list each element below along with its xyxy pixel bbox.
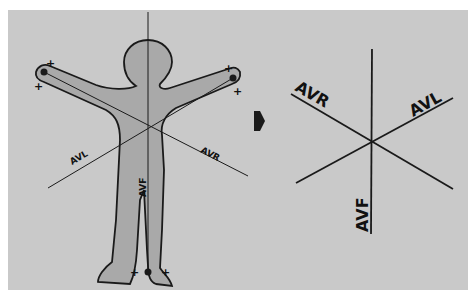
right-arm-electrode-icon bbox=[230, 75, 237, 82]
plus-icon: + bbox=[161, 266, 170, 279]
plus-icon: + bbox=[233, 85, 242, 98]
plus-icon: + bbox=[224, 62, 233, 75]
hexaxial-diagram bbox=[291, 49, 453, 234]
lead-diagram: + + + + + + AVL AVR AVF AVR AVL AVF bbox=[0, 0, 476, 299]
plus-icon: + bbox=[46, 57, 55, 70]
plus-icon: + bbox=[130, 266, 139, 279]
leg-electrode-icon bbox=[145, 269, 152, 276]
body-outline bbox=[36, 40, 240, 286]
avf-label-left: AVF bbox=[138, 178, 148, 197]
avl-label-left: AVL bbox=[68, 148, 90, 166]
avr-label-left: AVR bbox=[199, 145, 222, 163]
avf-label-right: AVF bbox=[353, 197, 372, 232]
plus-icon: + bbox=[34, 80, 43, 93]
avl-label-right: AVL bbox=[406, 87, 445, 120]
right-arrow-icon bbox=[254, 111, 265, 131]
